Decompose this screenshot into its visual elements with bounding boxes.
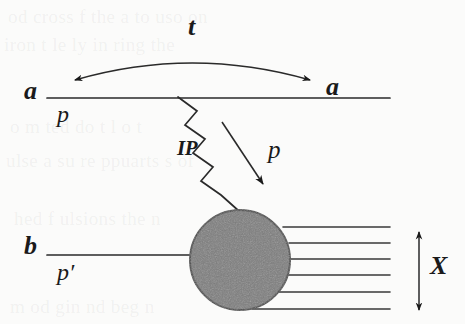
label-p-prime: p′ [57, 260, 74, 284]
diffractive-scattering-figure: od cross f the a to uso on iron t le ly … [0, 0, 465, 324]
label-x-system: X [430, 253, 447, 279]
label-p-incoming: p [57, 102, 69, 126]
label-t: t [188, 14, 195, 40]
dissociation-blob [190, 210, 290, 310]
label-pomeron: IP [177, 138, 197, 159]
label-a-right: a [326, 74, 339, 100]
outgoing-proton-arrow [222, 122, 263, 184]
label-p-outgoing: p [268, 137, 281, 162]
t-arc [75, 63, 310, 80]
label-a-left: a [24, 78, 37, 104]
label-b-left: b [24, 233, 37, 259]
